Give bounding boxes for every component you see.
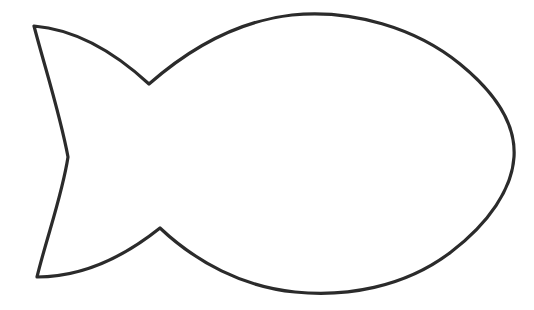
fish-body-outline-path — [34, 14, 514, 293]
drawing-canvas — [0, 0, 534, 310]
fish-outline-illustration — [0, 0, 534, 310]
